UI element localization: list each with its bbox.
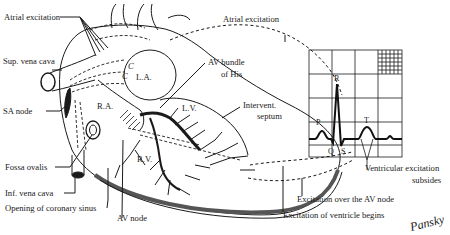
label-la: L.A. — [136, 73, 152, 82]
label-atrial-excitation-right: Atrial excitation — [223, 15, 279, 24]
label-atrial-excitation-left: Atrial excitation — [4, 13, 60, 22]
label-intervent-1: Intervent. — [243, 101, 276, 110]
ecg-label-q: Q — [328, 148, 334, 156]
label-c1: C — [128, 62, 134, 71]
label-av-bundle-1: AV bundle — [208, 58, 245, 67]
label-excitation-av-node: Excitation over the AV node — [297, 195, 394, 204]
label-ra: R.A. — [97, 102, 113, 111]
heart-outline — [60, 25, 341, 215]
label-opening-coronary-sinus: Opening of coronary sinus — [5, 204, 96, 213]
label-lv: L.V. — [182, 104, 197, 113]
label-c2: C — [122, 72, 128, 81]
label-av-node: AV node — [117, 214, 147, 223]
ecg-trace — [309, 84, 402, 146]
label-sup-vena-cava: Sup. vena cava — [3, 57, 55, 66]
label-sa-node: SA node — [3, 107, 32, 116]
ecg-grid — [309, 50, 402, 157]
label-ventricular-subsides-2: subsides — [412, 176, 441, 185]
ecg-label-r: R — [334, 75, 339, 83]
label-excitation-ventricle-begins: Excitation of ventricle begins — [283, 211, 384, 220]
ecg-label-s: S — [341, 148, 345, 156]
label-rv: R.V. — [137, 155, 152, 164]
label-ventricular-subsides-1: Ventricular excitation — [365, 164, 439, 173]
ecg-label-t: T — [364, 117, 369, 125]
ecg-label-p: P — [316, 119, 320, 127]
label-intervent-2: septum — [257, 112, 282, 121]
label-inf-vena-cava: Inf. vena cava — [5, 189, 53, 198]
label-fossa-ovalis: Fossa ovalis — [5, 163, 47, 172]
label-av-bundle-2: of His — [221, 70, 242, 79]
